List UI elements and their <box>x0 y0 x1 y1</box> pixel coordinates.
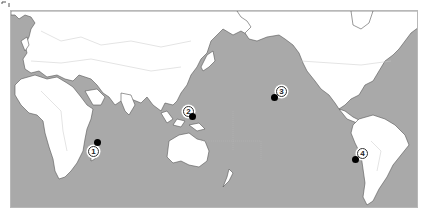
marker-dot-4[interactable] <box>352 156 359 163</box>
marker-dot-2[interactable] <box>189 113 196 120</box>
marker-dot-1[interactable] <box>94 139 101 146</box>
corner-bracket-mark <box>1 1 11 9</box>
marker-label-1: 1 <box>88 146 99 157</box>
world-map <box>10 10 418 208</box>
marker-dot-3[interactable] <box>271 94 278 101</box>
